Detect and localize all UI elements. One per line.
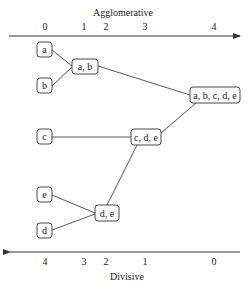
svg-text:e: e (42, 189, 47, 200)
node-d: d (37, 223, 52, 238)
edges (52, 50, 196, 230)
bottom-tick-label: 1 (143, 256, 148, 267)
hierarchical-clustering-diagram: Agglomerative 0 1 2 3 4 a b a, b a, b, c… (0, 0, 250, 289)
svg-text:c, d, e: c, d, e (134, 132, 158, 143)
divisive-title: Divisive (110, 271, 144, 282)
edge-b-ab (52, 67, 72, 86)
top-tick-label: 3 (143, 21, 148, 32)
edge-cde-abcde (161, 103, 196, 133)
edge-a-ab (52, 50, 72, 66)
top-tick-label: 0 (43, 21, 48, 32)
node-c: c (37, 129, 52, 144)
bottom-tick-label: 4 (43, 256, 48, 267)
agglomerative-axis: Agglomerative 0 1 2 3 4 (9, 7, 240, 36)
divisive-axis: 4 3 2 1 0 Divisive (10, 252, 240, 282)
svg-text:a, b, c, d, e: a, b, c, d, e (193, 90, 237, 101)
edge-d-de (52, 214, 95, 230)
edge-e-de (52, 195, 95, 213)
node-e: e (37, 187, 52, 202)
svg-text:d: d (42, 225, 47, 236)
agglomerative-title: Agglomerative (93, 7, 154, 18)
node-b: b (37, 78, 52, 93)
bottom-tick-label: 2 (104, 256, 109, 267)
node-cde: c, d, e (131, 129, 161, 145)
svg-text:b: b (42, 80, 47, 91)
svg-text:c: c (42, 131, 47, 142)
svg-text:a: a (42, 44, 47, 55)
bottom-tick-label: 3 (82, 256, 87, 267)
svg-text:a, b: a, b (78, 61, 92, 72)
node-ab: a, b (72, 59, 98, 74)
bottom-tick-label: 0 (212, 256, 217, 267)
edge-de-cde (107, 145, 137, 205)
node-a: a (37, 42, 52, 57)
edge-ab-abcde (98, 66, 190, 95)
top-tick-label: 1 (82, 21, 87, 32)
node-de: d, e (95, 205, 119, 221)
top-tick-label: 2 (104, 21, 109, 32)
top-tick-label: 4 (212, 21, 217, 32)
node-abcde: a, b, c, d, e (190, 87, 240, 103)
svg-text:d, e: d, e (100, 208, 115, 219)
